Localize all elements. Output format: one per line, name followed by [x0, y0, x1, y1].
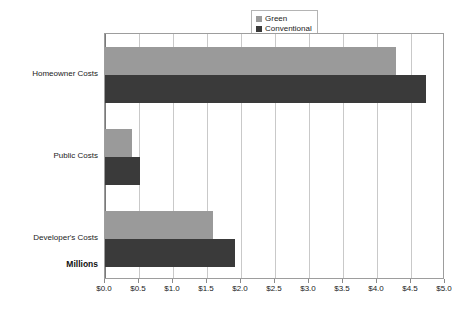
legend-item-green[interactable]: Green: [256, 14, 312, 23]
axis-units-label: Millions: [0, 259, 98, 269]
bar-conventional-0[interactable]: [105, 75, 426, 103]
x-tick-mark-3: [206, 279, 207, 283]
x-tick-mark-1: [138, 279, 139, 283]
x-tick-mark-2: [172, 279, 173, 283]
x-tick-mark-7: [342, 279, 343, 283]
bar-green-2[interactable]: [105, 211, 213, 239]
x-tick-label-10: $5.0: [424, 284, 458, 294]
category-label-1: Public Costs: [0, 151, 98, 161]
gridline: [411, 34, 412, 278]
x-tick-mark-8: [376, 279, 377, 283]
bar-green-0[interactable]: [105, 47, 396, 75]
bar-conventional-2[interactable]: [105, 239, 235, 267]
x-tick-mark-10: [444, 279, 445, 283]
legend-label-green: Green: [265, 14, 287, 23]
category-label-0: Homeowner Costs: [0, 69, 98, 79]
legend-item-conventional[interactable]: Conventional: [256, 24, 312, 33]
x-tick-mark-5: [274, 279, 275, 283]
x-tick-mark-9: [410, 279, 411, 283]
category-label-2: Developer's Costs: [0, 233, 98, 243]
legend-swatch-conventional: [256, 26, 262, 32]
legend-label-conventional: Conventional: [265, 24, 312, 33]
bar-conventional-1[interactable]: [105, 157, 140, 185]
legend-swatch-green: [256, 16, 262, 22]
x-tick-mark-4: [240, 279, 241, 283]
x-tick-mark-6: [308, 279, 309, 283]
x-tick-mark-0: [104, 279, 105, 283]
bar-green-1[interactable]: [105, 129, 132, 157]
plot-area: [104, 33, 444, 279]
bar-chart: Green Conventional Homeowner CostsPublic…: [0, 0, 458, 310]
